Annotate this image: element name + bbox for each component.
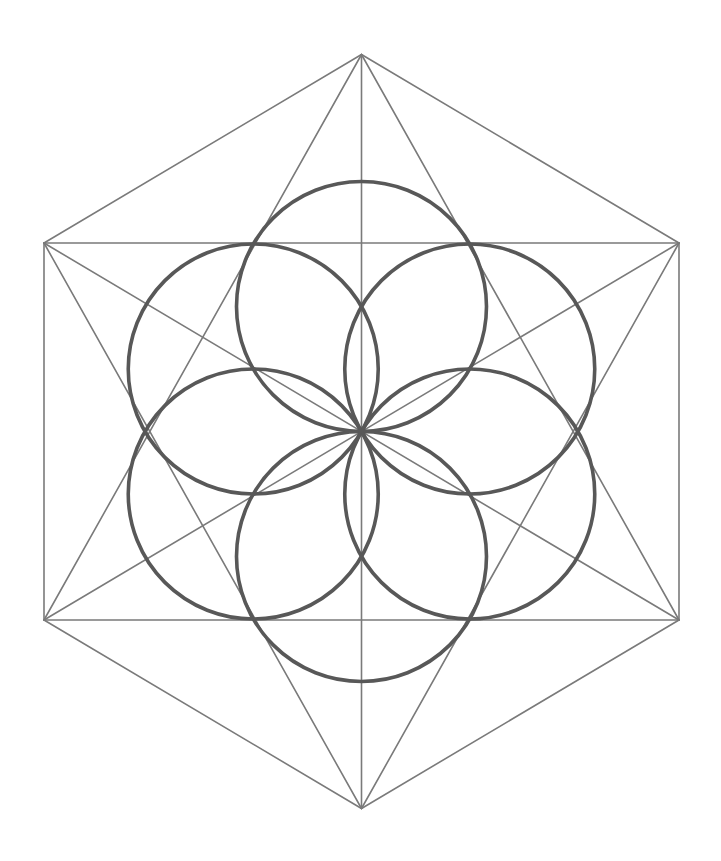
hexagon-edge-bottom-right — [362, 620, 680, 809]
hexagon-edge-bottom-left — [44, 620, 362, 809]
seed-of-life-diagram — [0, 0, 721, 861]
center-point — [359, 429, 364, 434]
hexagon-edge-top-right — [362, 55, 680, 244]
hexagon-edge-top-left — [44, 55, 362, 244]
